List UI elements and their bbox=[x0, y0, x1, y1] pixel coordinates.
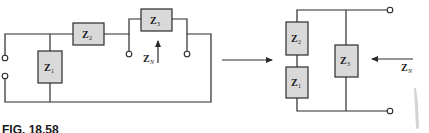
equivalent-circuit: Z 2 Z 1 Z 3 Z N bbox=[286, 7, 413, 114]
wire-z2-out bbox=[104, 19, 141, 34]
impedance-z3-equiv: Z 3 bbox=[335, 45, 358, 77]
original-circuit: Z 1 Z 2 Z 3 Z N bbox=[2, 9, 211, 102]
z3-equiv-subscript: 3 bbox=[347, 61, 350, 67]
zn-subscript-right: N bbox=[407, 68, 413, 74]
z1-equiv-subscript: 1 bbox=[298, 83, 301, 89]
zn-label-left: Z bbox=[143, 53, 150, 64]
terminal-output-bottom bbox=[387, 108, 393, 114]
zn-label-right: Z bbox=[401, 62, 408, 73]
circuit-diagram: Z 1 Z 2 Z 3 Z N bbox=[0, 0, 429, 133]
z3-subscript: 3 bbox=[157, 21, 160, 27]
scan-artifact bbox=[414, 88, 419, 129]
figure-caption: FIG. 18.58 bbox=[2, 123, 59, 133]
z2-equiv-label: Z bbox=[291, 33, 298, 44]
impedance-z2-equiv: Z 2 bbox=[286, 22, 308, 55]
z1-label: Z bbox=[44, 62, 51, 73]
terminal-input-bottom bbox=[2, 73, 8, 79]
wire-z3-out bbox=[172, 19, 187, 34]
z1-subscript: 1 bbox=[51, 68, 54, 74]
wire-right-top-rail bbox=[297, 10, 387, 22]
wire-left-rail-bottom bbox=[5, 34, 211, 102]
z2-equiv-subscript: 2 bbox=[298, 39, 301, 45]
terminal-input-top bbox=[2, 55, 8, 61]
z3-equiv-label: Z bbox=[340, 55, 347, 66]
impedance-z2: Z 2 bbox=[73, 23, 104, 45]
z1-equiv-label: Z bbox=[291, 77, 298, 88]
z3-label: Z bbox=[150, 15, 157, 26]
impedance-z1-equiv: Z 1 bbox=[286, 67, 308, 98]
z2-label: Z bbox=[82, 29, 89, 40]
wire-right-bottom-rail bbox=[297, 98, 387, 111]
terminal-zn-left bbox=[126, 51, 132, 57]
terminal-zn-right bbox=[184, 51, 190, 57]
z2-subscript: 2 bbox=[89, 35, 92, 41]
impedance-z3: Z 3 bbox=[141, 9, 172, 31]
impedance-z1: Z 1 bbox=[38, 51, 62, 83]
zn-subscript-left: N bbox=[149, 59, 155, 65]
terminal-output-top bbox=[387, 7, 393, 13]
